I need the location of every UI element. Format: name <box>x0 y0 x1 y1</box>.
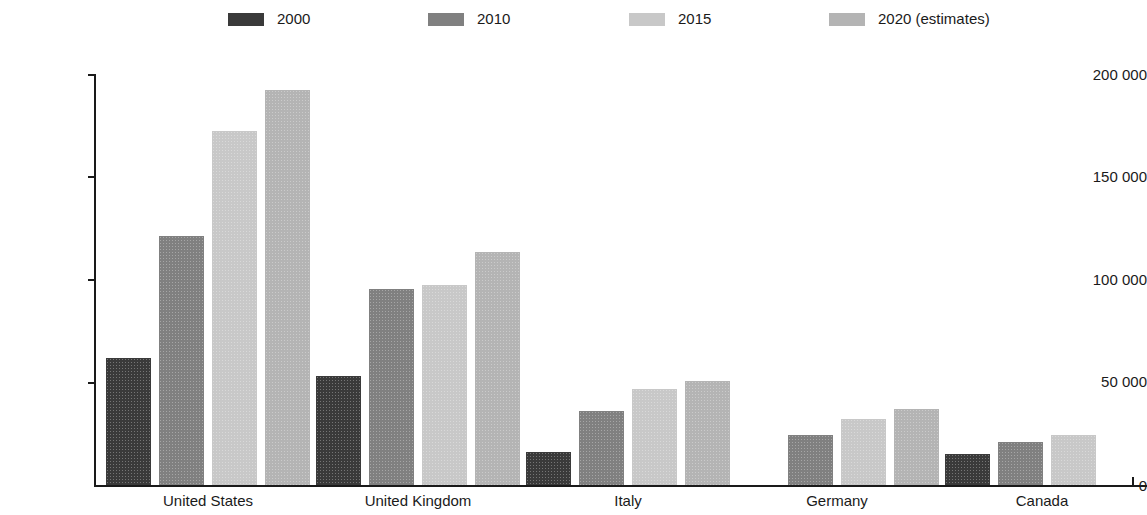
bar-2020[interactable] <box>475 252 520 485</box>
bar-group-united-kingdom <box>313 74 513 485</box>
y-tick-mark <box>88 382 95 384</box>
x-axis-label-italy: Italy <box>523 492 733 509</box>
bar-chart: 200 000 150 000 100 000 50 000 0 <box>0 40 1147 515</box>
bar-group-italy <box>523 74 723 485</box>
x-axis-label-united-states: United States <box>103 492 313 509</box>
bar-2020[interactable] <box>265 90 310 485</box>
bar-2010[interactable] <box>579 411 624 485</box>
bar-2020[interactable] <box>685 381 730 485</box>
bar-group-germany <box>732 74 932 485</box>
bar-2010[interactable] <box>369 289 414 485</box>
chart-legend: 2000 2010 2015 2020 (estimates) <box>0 0 1147 40</box>
x-axis-label-canada: Canada <box>937 492 1147 509</box>
y-tick-mark <box>88 279 95 281</box>
legend-swatch-2020 <box>829 13 865 26</box>
bar-group-united-states <box>103 74 303 485</box>
legend-item: 2015 <box>629 10 711 28</box>
bar-2020[interactable] <box>894 409 939 485</box>
y-tick-mark <box>88 176 95 178</box>
legend-item: 2010 <box>428 10 510 28</box>
bar-2000[interactable] <box>945 454 990 485</box>
legend-item: 2000 <box>228 10 310 28</box>
bar-2015[interactable] <box>632 389 677 485</box>
legend-label: 2010 <box>477 10 510 28</box>
bar-2010[interactable] <box>998 442 1043 485</box>
legend-label: 2015 <box>678 10 711 28</box>
bar-2000[interactable] <box>526 452 571 485</box>
legend-swatch-2015 <box>629 13 665 26</box>
legend-swatch-2010 <box>428 13 464 26</box>
bar-2010[interactable] <box>159 236 204 485</box>
bar-2015[interactable] <box>212 131 257 485</box>
bar-group-canada <box>942 74 1142 485</box>
legend-swatch-2000 <box>228 13 264 26</box>
x-axis-line <box>94 485 1147 487</box>
legend-label: 2000 <box>277 10 310 28</box>
y-tick-mark <box>88 74 95 76</box>
bar-2015[interactable] <box>422 285 467 485</box>
bar-2015[interactable] <box>1051 435 1096 485</box>
bar-2000[interactable] <box>106 358 151 485</box>
bar-2015[interactable] <box>841 419 886 485</box>
bar-2000[interactable] <box>316 376 361 485</box>
x-axis-label-united-kingdom: United Kingdom <box>313 492 523 509</box>
legend-label: 2020 (estimates) <box>878 10 990 28</box>
legend-item: 2020 (estimates) <box>829 10 990 28</box>
bar-2010[interactable] <box>788 435 833 485</box>
x-axis-label-germany: Germany <box>732 492 942 509</box>
plot-area <box>95 74 1140 485</box>
